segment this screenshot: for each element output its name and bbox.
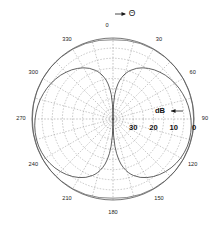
polar-pattern-figure: 03060901201501802102402703003303020100 d…	[0, 0, 222, 236]
grid-spoke	[113, 49, 154, 119]
grid-spoke	[35, 98, 113, 119]
angle-tick-label-180: 180	[108, 209, 118, 215]
angle-tick-label-300: 300	[28, 69, 38, 75]
grid-spoke	[113, 119, 170, 176]
grid-spoke	[113, 98, 191, 119]
plot-annotations: dBΘ	[115, 8, 183, 115]
radial-tick-label-20: 20	[149, 123, 157, 132]
grid-spoke	[113, 41, 134, 119]
radial-tick-label-30: 30	[129, 123, 137, 132]
angle-tick-label-210: 210	[62, 195, 72, 201]
db-direction-arrow-head	[171, 109, 176, 113]
angle-tick-label-270: 270	[16, 115, 26, 121]
grid-spoke	[92, 41, 113, 119]
grid-spoke	[35, 119, 113, 140]
angle-tick-label-0: 0	[105, 22, 108, 28]
angle-tick-label-150: 150	[154, 195, 164, 201]
theta-direction-arrow-head	[122, 12, 127, 16]
radial-tick-label-0: 0	[192, 123, 196, 132]
grid-spoke	[92, 119, 113, 197]
grid-spoke	[56, 62, 113, 119]
radial-tick-label-10: 10	[170, 123, 178, 132]
db-unit-label: dB	[155, 106, 166, 115]
angle-tick-label-330: 330	[62, 36, 72, 42]
theta-symbol-label: Θ	[129, 8, 136, 18]
polar-plot-svg: 03060901201501802102402703003303020100 d…	[0, 0, 222, 236]
angle-tick-label-60: 60	[189, 69, 195, 75]
angle-tick-label-120: 120	[188, 161, 198, 167]
angle-tick-label-30: 30	[156, 36, 162, 42]
grid-spoke	[56, 119, 113, 176]
angle-tick-label-90: 90	[202, 115, 208, 121]
angle-tick-label-240: 240	[28, 161, 38, 167]
grid-spoke	[113, 79, 183, 120]
